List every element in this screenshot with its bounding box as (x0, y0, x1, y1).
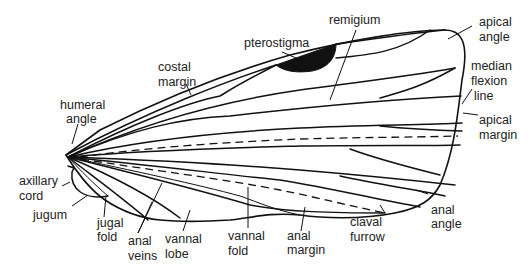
remigium-leader (330, 30, 356, 100)
label-anal-angle: analangle (431, 203, 462, 231)
axillary-cord-leader (62, 182, 70, 186)
wing-diagram: pterostigma remigium apicalangle costalm… (0, 0, 531, 269)
humeral-angle-leader (72, 124, 78, 144)
jugal-fold-line (68, 157, 108, 196)
vein-stigma-branch (336, 30, 430, 58)
label-apical-margin: apicalmargin (479, 113, 517, 142)
label-pterostigma: pterostigma (244, 36, 309, 50)
label-jugum: jugum (32, 208, 67, 222)
label-remigium: remigium (329, 13, 380, 27)
label-jugal-fold: jugalfold (96, 216, 123, 244)
vein-cubitus-branch-1 (350, 149, 440, 175)
label-claval-furrow: clavalfurrow (350, 215, 386, 244)
label-axillary-cord: axillarycord (19, 174, 59, 203)
axillary-cord-shape (68, 166, 108, 197)
label-humeral-angle: humeralangle (60, 98, 105, 126)
label-costal-margin: costalmargin (158, 60, 196, 89)
label-anal-margin: analmargin (287, 229, 325, 257)
vein-r1 (336, 30, 445, 44)
vein-media-branch (380, 126, 462, 131)
median-flexion-leader (462, 89, 472, 104)
apical-margin-leader (463, 113, 478, 115)
label-vannal-lobe: vannallobe (165, 232, 202, 261)
vein-radius-2 (68, 96, 461, 157)
label-median-flexion-line: medianflexionline (471, 59, 512, 103)
jugum-leader (72, 195, 88, 206)
label-anal-veins: analveins (128, 234, 157, 263)
anal-veins-leader-2 (138, 202, 152, 233)
vannal-lobe-leader (183, 210, 190, 231)
label-vannal-fold: vannalfold (228, 229, 265, 258)
vein-rs-branch (380, 68, 455, 98)
label-apical-angle: apicalangle (479, 15, 512, 44)
vein-cubitus (68, 145, 460, 157)
